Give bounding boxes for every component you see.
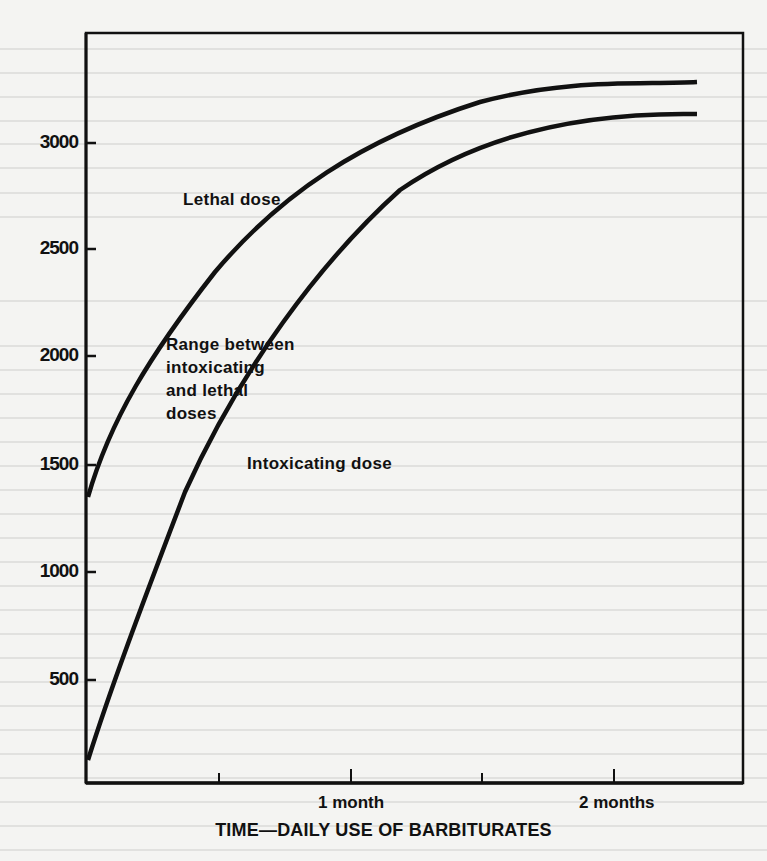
lethal-dose-curve [88,82,697,497]
y-tick-label-2500: 2500 [8,237,78,259]
x-tick-label-1-month: 1 month [318,793,384,813]
y-tick-label-3000: 3000 [8,131,78,153]
y-tick-label-1000: 1000 [8,560,78,582]
annotation-range-line-4: doses [166,402,295,425]
chart-plot-area [0,0,767,861]
annotation-range-line-1: Range between [166,333,295,356]
annotation-lethal-dose: Lethal dose [183,188,281,211]
y-tick-label-2000: 2000 [8,344,78,366]
annotation-range-line-3: and lethal [166,379,295,402]
x-tick-label-2-months: 2 months [579,793,655,813]
intoxicating-dose-curve [88,114,697,760]
y-tick-label-1500: 1500 [8,453,78,475]
annotation-range: Range between intoxicating and lethal do… [166,333,295,425]
y-tick-label-500: 500 [8,668,78,690]
x-ticks [219,769,614,783]
x-axis-title: TIME—DAILY USE OF BARBITURATES [0,820,767,841]
annotation-intoxicating-dose: Intoxicating dose [247,452,392,475]
annotation-range-line-2: intoxicating [166,356,295,379]
